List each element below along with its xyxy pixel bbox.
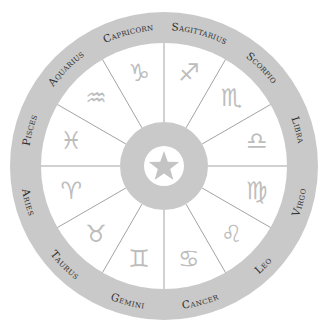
scorpio-icon: ♏ [221,84,243,112]
sagittarius-icon: ♐ [178,59,200,87]
libra-icon: ♎ [246,127,268,155]
leo-icon: ♌ [221,220,243,248]
capricorn-icon: ♑ [128,59,150,87]
gemini-icon: ♊ [128,245,150,273]
aquarius-icon: ♒ [85,84,107,112]
virgo-icon: ♍ [246,177,268,205]
zodiac-wheel: ♐♏♎♍♌♋♊♉♈♓♒♑ SagittariusScorpioLibraVirg… [0,0,325,332]
taurus-icon: ♉ [85,220,107,248]
pisces-icon: ♓ [61,127,83,155]
aries-icon: ♈ [61,177,83,205]
cancer-icon: ♋ [178,245,200,273]
